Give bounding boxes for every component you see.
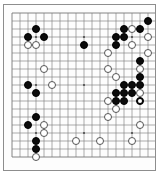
go-board-surface[interactable] bbox=[4, 5, 155, 170]
go-board-frame[interactable] bbox=[3, 4, 156, 171]
go-board-app bbox=[0, 0, 162, 176]
